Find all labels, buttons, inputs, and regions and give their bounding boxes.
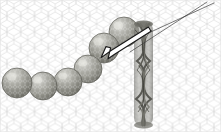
molecular-figure xyxy=(0,0,221,132)
nanoparticle-sphere-1 xyxy=(2,68,32,98)
nanoparticle-sphere-3 xyxy=(54,68,82,96)
figure-canvas xyxy=(0,0,221,132)
graphene-hexagonal-lattice xyxy=(0,0,221,132)
nanoparticle-sphere-2 xyxy=(29,72,57,100)
